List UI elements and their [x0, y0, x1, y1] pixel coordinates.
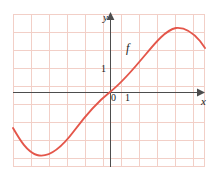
function-curve-f — [13, 28, 205, 156]
x-unit-tick-label: 1 — [125, 93, 130, 103]
graph-canvas — [0, 0, 215, 171]
curve-label-f: f — [126, 42, 129, 54]
y-axis-label: y — [103, 12, 108, 23]
grid-lines — [13, 14, 205, 167]
math-graph-figure: y x f 0 1 1 — [0, 0, 215, 171]
y-unit-tick-label: 1 — [101, 64, 106, 74]
origin-label: 0 — [111, 93, 116, 103]
x-axis-label: x — [201, 96, 206, 107]
